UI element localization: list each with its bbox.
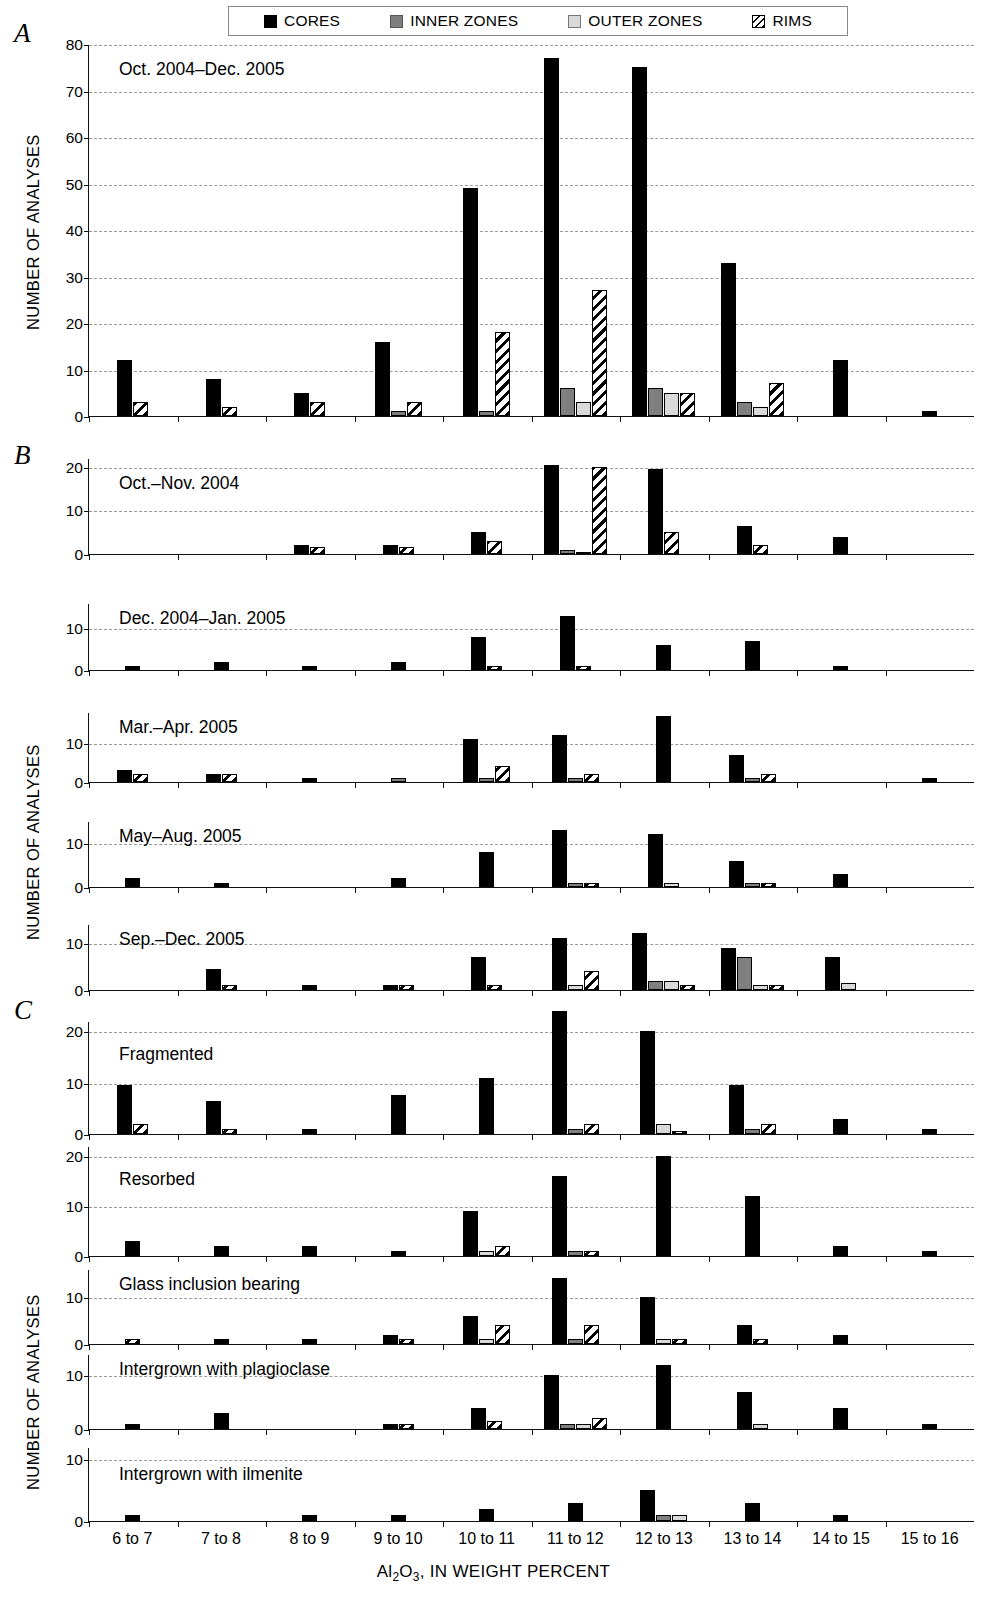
bar-rims (584, 883, 599, 887)
y-tick-label: 80 (66, 36, 83, 54)
bar-cores (302, 1339, 317, 1344)
bar-rims (310, 547, 325, 554)
bar-cores (471, 637, 486, 671)
bar-rims (222, 1129, 237, 1134)
panel-letter-c: C (14, 995, 32, 1026)
x-tick-mark (443, 1521, 444, 1527)
x-tick-mark (178, 1521, 179, 1527)
subplot-2: 01020Oct.–Nov. 2004 (88, 459, 974, 555)
bar-rims (761, 883, 776, 887)
x-tick-mark (443, 416, 444, 422)
subplot-title: Sep.–Dec. 2005 (119, 929, 245, 950)
bar-rims (133, 402, 148, 416)
bin-group (797, 604, 886, 670)
bin-group (266, 459, 355, 554)
bin-group (532, 1147, 621, 1256)
subplot-11: 010Intergrown with ilmenite (88, 1448, 974, 1522)
bin-group (797, 1147, 886, 1256)
x-tick-mark (266, 990, 267, 996)
legend-item-cores: CORES (264, 12, 340, 30)
x-tick-mark (355, 1256, 356, 1262)
bin-group (709, 1147, 798, 1256)
x-tick-mark (886, 782, 887, 788)
bar-cores (721, 263, 736, 416)
bar-rims (310, 402, 325, 416)
x-tick-mark (709, 1521, 710, 1527)
y-tick-label: 70 (66, 83, 83, 101)
bin-group (797, 713, 886, 782)
bar-cores (463, 188, 478, 416)
x-tick-mark (797, 887, 798, 893)
bar-cores (294, 545, 309, 554)
bar-cores (302, 985, 317, 990)
bar-rims (495, 766, 510, 782)
y-tick-label: 0 (74, 408, 83, 426)
bar-cores (463, 1316, 478, 1344)
y-tick-label: 10 (66, 1075, 83, 1093)
x-tick-mark (886, 1344, 887, 1350)
plot-area: 010Sep.–Dec. 2005 (88, 925, 974, 991)
x-tick-mark (355, 782, 356, 788)
bar-rims (487, 666, 502, 670)
bar-rims (495, 332, 510, 416)
bar-cores (648, 469, 663, 554)
bar-inner (391, 778, 406, 782)
x-tick-mark (266, 887, 267, 893)
bar-rims (125, 1339, 140, 1344)
bar-inner (560, 550, 575, 554)
bin-group (709, 45, 798, 416)
bar-rims (222, 407, 237, 416)
bar-cores (833, 1515, 848, 1521)
bar-cores (640, 1490, 655, 1521)
bin-group (709, 1270, 798, 1344)
bar-rims (769, 985, 784, 990)
bin-group (266, 1022, 355, 1134)
bar-rims (680, 393, 695, 416)
bar-outer (841, 983, 856, 990)
x-tick-mark (443, 1256, 444, 1262)
x-tick-mark (797, 416, 798, 422)
bin-group (443, 45, 532, 416)
bin-group (886, 1448, 975, 1521)
bin-group (709, 604, 798, 670)
y-tick-label: 0 (74, 879, 83, 897)
bin-group (443, 1448, 532, 1521)
bar-outer (656, 1124, 671, 1134)
bin-group (532, 925, 621, 990)
x-tick-mark (709, 782, 710, 788)
bin-group (355, 713, 444, 782)
bar-cores (206, 774, 221, 782)
bar-cores (383, 1335, 398, 1344)
bin-group (709, 822, 798, 887)
y-tick-label: 50 (66, 176, 83, 194)
bar-inner (737, 957, 752, 990)
x-tick-mark (886, 990, 887, 996)
bar-cores (294, 393, 309, 416)
bar-inner (745, 1129, 760, 1134)
legend-swatch-inner-icon (390, 15, 403, 28)
bar-cores (632, 933, 647, 990)
x-tick-label: 14 to 15 (797, 1530, 886, 1548)
bar-cores (552, 1176, 567, 1256)
subplot-5: 010May–Aug. 2005 (88, 822, 974, 888)
y-axis-title-2: NUMBER OF ANALYSES (24, 744, 43, 940)
x-tick-label: 8 to 9 (265, 1530, 354, 1548)
x-tick-label: 6 to 7 (88, 1530, 177, 1548)
bar-inner (568, 778, 583, 782)
bar-inner (737, 402, 752, 416)
x-axis-tick-labels: 6 to 77 to 88 to 99 to 1010 to 1111 to 1… (88, 1530, 974, 1548)
x-tick-mark (886, 1256, 887, 1262)
bin-group (620, 459, 709, 554)
bin-group (266, 925, 355, 990)
y-tick-label: 10 (66, 1289, 83, 1307)
bin-group (532, 604, 621, 670)
bar-inner (745, 883, 760, 887)
x-tick-mark (532, 670, 533, 676)
plot-area: 01020304050607080Oct. 2004–Dec. 2005 (88, 45, 974, 417)
bar-rims (407, 402, 422, 416)
x-tick-label: 15 to 16 (885, 1530, 974, 1548)
legend-item-outer: OUTER ZONES (568, 12, 702, 30)
x-axis-title: Al2O3, IN WEIGHT PERCENT (0, 1562, 987, 1584)
x-tick-mark (178, 670, 179, 676)
bin-group (797, 925, 886, 990)
